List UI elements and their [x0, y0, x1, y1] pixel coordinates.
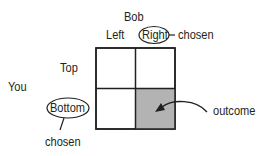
outcome-cell	[136, 89, 176, 130]
column-option-left: Left	[106, 28, 124, 42]
column-option-right: Right	[142, 28, 168, 42]
row-option-top: Top	[60, 61, 78, 75]
column-chosen-label: chosen	[178, 28, 214, 42]
row-chosen-label: chosen	[45, 135, 81, 149]
outcome-label: outcome	[213, 104, 255, 118]
bottom-chosen-connector	[60, 118, 64, 130]
row-option-bottom: Bottom	[50, 101, 85, 115]
row-player-name: You	[8, 80, 27, 94]
column-player-name: Bob	[124, 10, 144, 24]
